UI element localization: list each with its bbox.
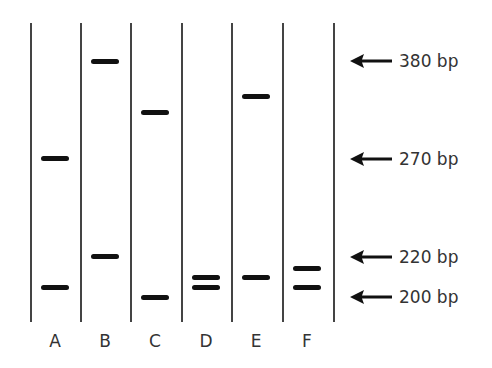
lane-divider-line bbox=[130, 23, 132, 322]
dna-band-lane-a bbox=[41, 285, 69, 290]
marker-size-label: 380 bp bbox=[399, 51, 458, 71]
lane-label-b: B bbox=[90, 331, 120, 351]
lane-divider-line bbox=[30, 23, 32, 322]
lane-label-f: F bbox=[292, 331, 322, 351]
arrow-left-icon bbox=[350, 152, 392, 166]
size-marker: 270 bp bbox=[350, 149, 458, 169]
lane-divider-line bbox=[181, 23, 183, 322]
lane-divider-line bbox=[333, 23, 335, 322]
lane-label-a: A bbox=[40, 331, 70, 351]
dna-band-lane-f bbox=[293, 285, 321, 290]
marker-size-label: 270 bp bbox=[399, 149, 458, 169]
lane-divider-line bbox=[282, 23, 284, 322]
lane-divider-line bbox=[80, 23, 82, 322]
arrow-left-icon bbox=[350, 250, 392, 264]
lane-label-d: D bbox=[191, 331, 221, 351]
arrow-left-icon bbox=[350, 54, 392, 68]
size-marker: 220 bp bbox=[350, 247, 458, 267]
dna-band-lane-f bbox=[293, 266, 321, 271]
dna-band-lane-b bbox=[91, 59, 119, 64]
dna-band-lane-e bbox=[242, 275, 270, 280]
gel-diagram: ABCDEF 380 bp270 bp220 bp200 bp bbox=[0, 0, 492, 368]
dna-band-lane-d bbox=[192, 275, 220, 280]
lane-label-c: C bbox=[140, 331, 170, 351]
marker-size-label: 220 bp bbox=[399, 247, 458, 267]
dna-band-lane-c bbox=[141, 295, 169, 300]
size-marker: 380 bp bbox=[350, 51, 458, 71]
dna-band-lane-b bbox=[91, 254, 119, 259]
arrow-left-icon bbox=[350, 290, 392, 304]
dna-band-lane-a bbox=[41, 156, 69, 161]
dna-band-lane-c bbox=[141, 110, 169, 115]
lane-divider-line bbox=[231, 23, 233, 322]
lane-label-e: E bbox=[241, 331, 271, 351]
dna-band-lane-e bbox=[242, 94, 270, 99]
dna-band-lane-d bbox=[192, 285, 220, 290]
marker-size-label: 200 bp bbox=[399, 287, 458, 307]
size-marker: 200 bp bbox=[350, 287, 458, 307]
